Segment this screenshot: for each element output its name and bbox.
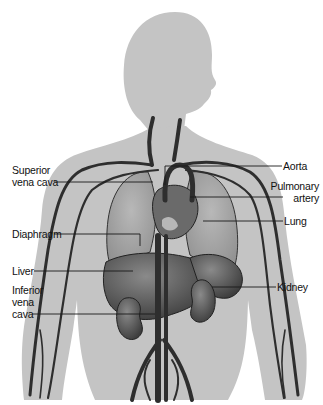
circulatory-system-diagram: Superior vena cava Diaphragm Liver Infer…	[0, 0, 323, 405]
label-line: Pulmonary	[263, 180, 319, 192]
label-line: artery	[263, 192, 319, 204]
label-line: Superior	[12, 164, 58, 176]
label-superior-vena-cava: Superior vena cava	[12, 164, 58, 188]
kidney-right-shape	[191, 280, 216, 322]
kidney-left-shape	[117, 298, 143, 340]
label-line: Kidney	[277, 281, 308, 293]
label-kidney: Kidney	[277, 281, 308, 293]
label-line: vena	[12, 296, 43, 308]
label-aorta: Aorta	[283, 160, 307, 172]
label-line: vena cava	[12, 176, 58, 188]
label-pulmonary-artery: Pulmonary artery	[263, 180, 319, 204]
label-liver: Liver	[12, 265, 34, 277]
label-line: Diaphragm	[12, 228, 62, 240]
label-line: Lung	[284, 215, 307, 227]
label-diaphragm: Diaphragm	[12, 228, 62, 240]
label-lung: Lung	[284, 215, 307, 227]
label-line: Aorta	[283, 160, 307, 172]
label-line: cava	[12, 308, 43, 320]
label-line: Liver	[12, 265, 34, 277]
label-line: Inferior	[12, 284, 43, 296]
label-inferior-vena-cava: Inferior vena cava	[12, 284, 43, 320]
